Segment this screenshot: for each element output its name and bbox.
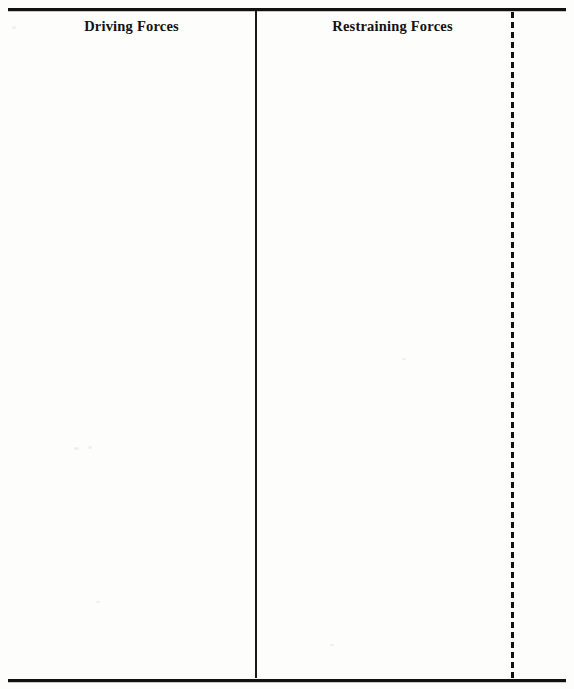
vertical-divider-dashed (511, 12, 514, 678)
vertical-divider-solid (255, 11, 257, 678)
top-horizontal-rule (8, 8, 566, 11)
worksheet-page: Driving Forces Restraining Forces (0, 0, 574, 689)
column-body-driving-forces[interactable] (10, 42, 253, 678)
column-header-restraining-forces: Restraining Forces (265, 16, 520, 36)
column-header-row: Driving Forces Restraining Forces (8, 16, 566, 38)
column-body-right-margin[interactable] (516, 42, 566, 678)
bottom-horizontal-rule (8, 679, 566, 682)
column-header-driving-forces: Driving Forces (8, 16, 255, 36)
column-body-restraining-forces[interactable] (259, 42, 509, 678)
